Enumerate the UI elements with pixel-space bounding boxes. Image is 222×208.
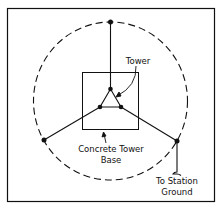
base-label-line1: Concrete Tower bbox=[78, 144, 144, 154]
tower-grounding-diagram: Tower Concrete Tower Base To Station Gro… bbox=[0, 0, 222, 208]
ground-label-line1: To Station bbox=[155, 176, 198, 186]
tower-arrow bbox=[117, 66, 136, 96]
tower-label: Tower bbox=[125, 56, 151, 66]
base-label-line2: Base bbox=[101, 155, 122, 165]
ground-label-line2: Ground bbox=[161, 187, 192, 197]
tower-triangle bbox=[100, 89, 121, 107]
